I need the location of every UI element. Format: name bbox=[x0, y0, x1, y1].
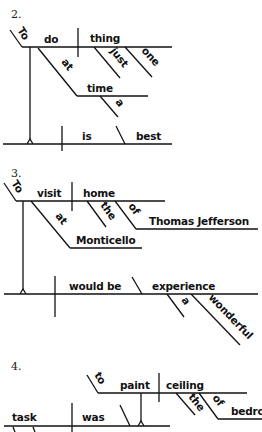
word-thing: thing bbox=[90, 32, 120, 44]
word-best: best bbox=[136, 130, 161, 142]
pedestal-base bbox=[27, 139, 33, 144]
word-task: task bbox=[12, 411, 38, 423]
word-of: of bbox=[126, 200, 143, 217]
word-of: of bbox=[210, 392, 227, 409]
word-home: home bbox=[83, 187, 115, 199]
word-monticello: Monticello bbox=[76, 234, 136, 246]
word-a: a bbox=[113, 96, 127, 109]
diagram-2: 2. To do thing just one at time a is bes… bbox=[3, 8, 172, 150]
preposition-slant bbox=[38, 48, 77, 96]
word-paint: paint bbox=[120, 379, 150, 391]
modifier-slant bbox=[33, 427, 35, 432]
word-thomas-jefferson: Thomas Jefferson bbox=[149, 215, 249, 227]
word-visit: visit bbox=[37, 187, 61, 199]
modifier-slant bbox=[167, 294, 184, 317]
pedestal-base bbox=[20, 289, 26, 294]
word-is: is bbox=[82, 130, 91, 142]
modifier-slant bbox=[100, 96, 118, 117]
word-experience: experience bbox=[152, 280, 215, 292]
diagram-3: 3. To visit home the of Thomas Jefferson… bbox=[4, 150, 258, 345]
word-a: a bbox=[179, 294, 193, 307]
modifier-slant bbox=[13, 427, 15, 432]
word-wonderful: wonderful bbox=[207, 291, 256, 341]
complement-slant bbox=[132, 277, 142, 294]
preposition-slant bbox=[31, 201, 70, 248]
word-the: the bbox=[186, 391, 207, 413]
word-just: just bbox=[108, 44, 131, 69]
pedestal-base bbox=[138, 421, 144, 426]
word-to: To bbox=[15, 25, 32, 42]
diagram-number: 4. bbox=[11, 360, 22, 373]
complement-slant bbox=[120, 405, 130, 426]
word-at: at bbox=[53, 210, 70, 227]
diagram-canvas: 2. To do thing just one at time a is bes… bbox=[0, 0, 262, 432]
diagram-4: 4. to paint ceiling the of bedro task wa… bbox=[4, 360, 262, 432]
word-to: To bbox=[9, 178, 26, 195]
diagram-number: 2. bbox=[11, 8, 22, 21]
word-one: one bbox=[140, 44, 163, 68]
word-at: at bbox=[59, 56, 76, 73]
word-was: was bbox=[82, 411, 104, 423]
complement-slant bbox=[116, 126, 125, 144]
word-would-be: would be bbox=[69, 280, 121, 292]
word-bedro: bedro bbox=[231, 405, 262, 417]
word-do: do bbox=[44, 33, 58, 45]
word-ceiling: ceiling bbox=[166, 379, 204, 391]
word-to: to bbox=[92, 370, 108, 386]
word-time: time bbox=[87, 82, 113, 94]
